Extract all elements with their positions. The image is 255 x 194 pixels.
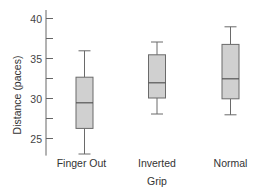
x-category-labels: Finger OutInvertedNormal: [57, 157, 248, 169]
box-plot-chart: 25303540 Finger OutInvertedNormal Distan…: [0, 0, 255, 194]
boxes: [76, 27, 239, 154]
iqr-box: [149, 55, 166, 98]
y-axis: 25303540: [30, 10, 53, 156]
iqr-box: [222, 44, 239, 98]
y-tick-label: 35: [30, 53, 42, 65]
y-tick-label: 40: [30, 13, 42, 25]
box-inverted: [149, 42, 166, 114]
box-finger-out: [76, 51, 93, 154]
x-category-label: Inverted: [138, 157, 176, 169]
box-normal: [222, 27, 239, 115]
x-category-label: Normal: [214, 157, 248, 169]
y-tick-label: 30: [30, 93, 42, 105]
y-axis-title: Distance (paces): [11, 56, 23, 135]
x-category-label: Finger Out: [57, 157, 107, 169]
y-tick-label: 25: [30, 133, 42, 145]
x-axis-title: Grip: [147, 175, 167, 187]
